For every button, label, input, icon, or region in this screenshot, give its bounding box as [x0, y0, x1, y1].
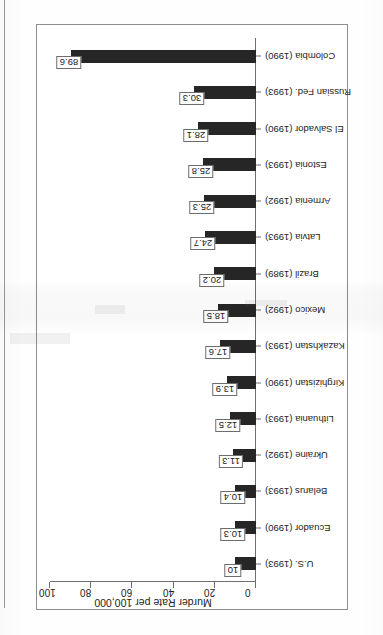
- category-axis-tick: [256, 56, 261, 57]
- bar-item: 10.3Ecuador (1990): [50, 509, 256, 545]
- category-axis-label: Brazil (1989): [265, 269, 319, 279]
- value-axis-title: Murder Rate per 100,000: [94, 598, 211, 610]
- bar-value-label: 10.4: [220, 491, 245, 504]
- bar-item: 89.6Colombia (1990): [50, 38, 256, 74]
- category-axis-tick: [256, 92, 261, 93]
- category-axis-tick: [256, 418, 261, 419]
- bar-item: 28.1El Salvador (1990): [50, 111, 256, 147]
- category-axis-tick: [256, 310, 261, 311]
- bar-series: 10U.S. (1993)10.3Ecuador (1990)10.4Belar…: [50, 38, 256, 582]
- category-axis-label: Russian Fed. (1993): [265, 87, 351, 97]
- bar-value-label: 18.5: [204, 310, 229, 323]
- bar-value-label: 28.1: [184, 129, 209, 142]
- category-axis-label: Estonia (1993): [265, 160, 327, 170]
- category-axis-tick: [256, 346, 261, 347]
- category-axis-label: Colombia (1990): [265, 51, 335, 61]
- bar-value-label: 30.3: [179, 92, 204, 105]
- category-axis-label: Armenia (1992): [265, 196, 330, 206]
- category-axis-tick: [256, 164, 261, 165]
- bar: 17.6: [220, 340, 256, 353]
- value-axis-tick-label: 20: [204, 587, 215, 598]
- bar: 10: [235, 557, 256, 570]
- bar-value-label: 20.2: [200, 274, 225, 287]
- bar: 28.1: [198, 122, 256, 135]
- value-axis-tick-label: 100: [39, 587, 56, 598]
- bar-item: 11.3Ukraine (1992): [50, 437, 256, 473]
- bar: 89.6: [71, 50, 256, 63]
- bar-value-label: 24.7: [191, 237, 216, 250]
- bar-item: 12.5Lithuania (1993): [50, 401, 256, 437]
- category-axis-label: Kirghizistan (1990): [265, 378, 344, 388]
- bar-item: 25.8Estonia (1993): [50, 147, 256, 183]
- bar-value-label: 11.3: [219, 455, 243, 468]
- bar: 10.3: [235, 521, 256, 534]
- bar-value-label: 89.6: [57, 56, 82, 69]
- bar: 11.3: [233, 449, 256, 462]
- bar-value-label: 25.3: [190, 201, 215, 214]
- bar-value-label: 10.3: [221, 528, 246, 541]
- category-axis-label: Mexico (1992): [265, 305, 325, 315]
- category-axis-label: Belarus (1993): [265, 486, 327, 496]
- category-axis-tick: [256, 563, 261, 564]
- value-axis-title-holder: Murder Rate per 100,000: [50, 603, 256, 604]
- bar: 10.4: [235, 485, 256, 498]
- category-axis-tick: [256, 491, 261, 492]
- bar: 30.3: [194, 86, 256, 99]
- bar-item: 10.4Belarus (1993): [50, 473, 256, 509]
- bar-value-label: 12.5: [216, 419, 241, 432]
- bar-item: 13.9Kirghizistan (1990): [50, 364, 256, 400]
- category-axis-tick: [256, 237, 261, 238]
- bar-value-label: 17.6: [206, 346, 231, 359]
- bar: 13.9: [227, 376, 256, 389]
- category-axis-label: Ecuador (1990): [265, 523, 330, 533]
- bar-value-label: 25.8: [189, 165, 214, 178]
- value-axis-tick-label: 40: [163, 587, 174, 598]
- category-axis-label: Latvia (1993): [265, 232, 320, 242]
- bar: 20.2: [214, 267, 256, 280]
- bar-item: 20.2Brazil (1989): [50, 256, 256, 292]
- bar-item: 25.3Armenia (1992): [50, 183, 256, 219]
- category-axis-tick: [256, 382, 261, 383]
- bar: 12.5: [230, 412, 256, 425]
- bar-item: 18.5Mexico (1992): [50, 292, 256, 328]
- category-axis-tick: [256, 527, 261, 528]
- chart-stage: Murder Rate per 100,000 020406080100 10U…: [0, 0, 383, 635]
- rotated-chart-container: Murder Rate per 100,000 020406080100 10U…: [36, 24, 348, 610]
- bar-value-label: 13.9: [213, 383, 238, 396]
- value-axis-tick: [255, 582, 256, 588]
- category-axis-tick: [256, 201, 261, 202]
- bar: 25.3: [204, 195, 256, 208]
- scanned-page-edge: [4, 0, 5, 608]
- category-axis-label: Ukraine (1992): [265, 450, 328, 460]
- value-axis-tick-label: 80: [80, 587, 91, 598]
- bar-value-label: 10: [225, 564, 242, 577]
- bar: 25.8: [203, 158, 256, 171]
- category-axis-label: U.S. (1993): [265, 559, 314, 569]
- bar-item: 17.6Kazakhstan (1993): [50, 328, 256, 364]
- bar-item: 24.7Latvia (1993): [50, 219, 256, 255]
- category-axis-label: Kazakhstan (1993): [265, 341, 345, 351]
- category-axis-label: Lithuania (1993): [265, 414, 334, 424]
- bar: 24.7: [205, 231, 256, 244]
- value-axis-tick-label: 0: [245, 587, 251, 598]
- plot-area: 020406080100 10U.S. (1993)10.3Ecuador (1…: [50, 38, 256, 582]
- value-axis-tick-label: 60: [121, 587, 132, 598]
- bar-item: 10U.S. (1993): [50, 546, 256, 582]
- bar: 18.5: [218, 304, 256, 317]
- category-axis-label: El Salvador (1990): [265, 124, 344, 134]
- category-axis-tick: [256, 455, 261, 456]
- category-axis-tick: [256, 273, 261, 274]
- bar-item: 30.3Russian Fed. (1993): [50, 74, 256, 110]
- category-axis-tick: [256, 128, 261, 129]
